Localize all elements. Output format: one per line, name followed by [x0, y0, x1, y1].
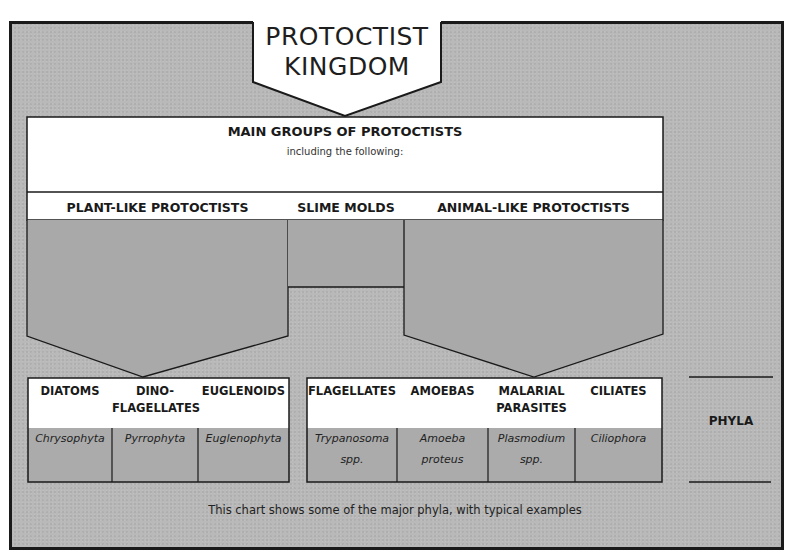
group-label-animal-like: ANIMAL-LIKE PROTOCTISTS	[404, 200, 663, 215]
phylum-euglenophyta: Euglenophyta	[198, 428, 289, 449]
main-groups-title: MAIN GROUPS OF PROTOCTISTS	[27, 124, 663, 139]
cell-ciliates: CILIATES	[575, 383, 662, 400]
phyla-label: PHYLA	[689, 414, 773, 428]
group-label-slime-molds: SLIME MOLDS	[288, 200, 404, 215]
cell-amoebas: AMOEBAS	[397, 383, 488, 400]
diagram-title: PROTOCTIST KINGDOM	[253, 22, 441, 82]
example-plasmodium: Plasmodium spp.	[488, 428, 575, 470]
group-label-plant-like: PLANT-LIKE PROTOCTISTS	[27, 200, 288, 215]
phylum-chrysophyta: Chrysophyta	[28, 428, 112, 449]
animal-like-arrow-shape	[404, 220, 663, 377]
diagram-caption: This chart shows some of the major phyla…	[10, 503, 780, 517]
cell-euglenoids: EUGLENOIDS	[198, 383, 289, 400]
phylum-ciliophora: Ciliophora	[575, 428, 662, 449]
cell-diatoms: DIATOMS	[28, 383, 112, 400]
slime-molds-shape	[288, 220, 404, 287]
cell-flagellates: FLAGELLATES	[307, 383, 397, 400]
main-groups-subtitle: including the following:	[27, 146, 663, 157]
title-line-1: PROTOCTIST	[253, 22, 441, 52]
example-trypanosoma: Trypanosoma spp.	[307, 428, 397, 470]
cell-dinoflagellates: DINO- FLAGELLATES	[112, 383, 198, 417]
cell-malarial-parasites: MALARIAL PARASITES	[488, 383, 575, 417]
phylum-pyrrophyta: Pyrrophyta	[112, 428, 198, 449]
diagram-shapes	[0, 0, 795, 557]
plant-like-arrow-shape	[27, 220, 288, 377]
example-amoeba-proteus: Amoeba proteus	[397, 428, 488, 470]
title-line-2: KINGDOM	[253, 52, 441, 82]
